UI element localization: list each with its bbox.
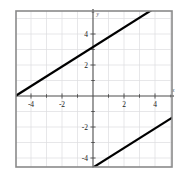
x-tick-label-pos4: 4 <box>153 100 157 109</box>
x-tick-label-pos2: 2 <box>122 100 126 109</box>
y-tick-label-neg4: -4 <box>82 154 88 163</box>
y-tick-label-neg2: -2 <box>82 123 88 132</box>
x-tick-label-neg4: -4 <box>28 100 34 109</box>
y-tick-label-pos4: 4 <box>84 30 88 39</box>
y-tick-label-pos2: 2 <box>84 61 88 70</box>
x-tick-label-neg2: -2 <box>59 100 65 109</box>
coordinate-plane-plot: -4 -2 2 4 4 2 -2 -4 y x <box>0 0 188 178</box>
graph-figure: -4 -2 2 4 4 2 -2 -4 y x <box>0 0 188 178</box>
